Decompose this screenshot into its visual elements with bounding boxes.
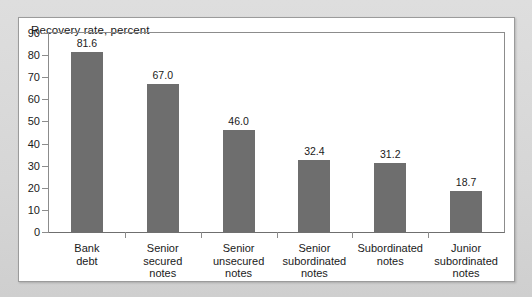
y-axis-tick-label: 90 [28, 27, 40, 39]
y-axis-tick-label: 20 [28, 182, 40, 194]
bar: 31.2 [374, 163, 406, 232]
bar-value-label: 31.2 [380, 148, 400, 160]
x-axis-category-label-line: Senior [283, 242, 347, 255]
y-axis-tick-mark [42, 121, 49, 122]
y-axis-tick-mark [42, 166, 49, 167]
y-axis-tick-label: 30 [28, 160, 40, 172]
x-axis-tick-mark [428, 232, 429, 238]
x-axis-tick-mark [277, 232, 278, 238]
y-axis-tick-label: 40 [28, 138, 40, 150]
bar: 81.6 [71, 52, 103, 232]
x-axis-tick-mark [352, 232, 353, 238]
y-axis-tick-label: 80 [28, 49, 40, 61]
bar-value-label: 32.4 [304, 145, 324, 157]
x-axis-category-label-line: debt [74, 255, 99, 268]
bar-value-label: 67.0 [153, 69, 173, 81]
x-axis-category-label-line: Subordinated [358, 242, 423, 255]
bar: 32.4 [298, 160, 330, 232]
x-axis-category-label-line: Junior [434, 242, 498, 255]
bar: 67.0 [147, 84, 179, 232]
x-axis-category-label-line: notes [283, 267, 347, 280]
x-axis-category-label: Subordinatednotes [358, 242, 423, 267]
plot-area: 9080706050403020100 81.667.046.032.431.2… [48, 32, 505, 233]
y-axis-tick-mark [42, 55, 49, 56]
x-axis-category-label-line: notes [213, 267, 264, 280]
x-axis-tick-mark [125, 232, 126, 238]
y-axis-tick-mark [42, 232, 49, 233]
x-axis-category-label-line: subordinated [434, 255, 498, 268]
x-axis-category-label: Seniorsubordinatednotes [283, 242, 347, 280]
x-axis-category-label-line: notes [143, 267, 182, 280]
y-axis-tick-mark [42, 99, 49, 100]
x-axis-category-label-line: subordinated [283, 255, 347, 268]
y-axis-tick-label: 0 [34, 226, 40, 238]
x-axis-category-label: Bankdebt [74, 242, 99, 267]
x-axis-category-label-line: Bank [74, 242, 99, 255]
x-axis-category-label: Seniorunsecurednotes [213, 242, 264, 280]
bar-value-label: 81.6 [77, 37, 97, 49]
y-axis-tick-label: 10 [28, 204, 40, 216]
y-axis-tick-label: 50 [28, 115, 40, 127]
y-axis-tick-mark [42, 33, 49, 34]
x-axis-category-label-line: Senior [143, 242, 182, 255]
figure-root: Recovery rate, percent 90807060504030201… [0, 0, 532, 297]
y-axis-tick-label: 70 [28, 71, 40, 83]
bar: 46.0 [223, 130, 255, 232]
y-axis-tick-mark [42, 188, 49, 189]
y-axis-tick-mark [42, 210, 49, 211]
x-axis-category-label-line: notes [358, 255, 423, 268]
bar: 18.7 [450, 191, 482, 232]
bar-value-label: 18.7 [456, 176, 476, 188]
x-axis-category-label-line: unsecured [213, 255, 264, 268]
chart-panel: Recovery rate, percent 90807060504030201… [18, 17, 515, 282]
x-axis-category-label-line: Senior [213, 242, 264, 255]
x-axis-category-label-line: notes [434, 267, 498, 280]
y-axis-tick-mark [42, 144, 49, 145]
x-axis-category-label: Juniorsubordinatednotes [434, 242, 498, 280]
x-axis-tick-mark [201, 232, 202, 238]
bar-value-label: 46.0 [228, 115, 248, 127]
y-axis-tick-label: 60 [28, 93, 40, 105]
y-axis-tick-mark [42, 77, 49, 78]
x-axis-category-label-line: secured [143, 255, 182, 268]
x-axis-category-label: Seniorsecurednotes [143, 242, 182, 280]
